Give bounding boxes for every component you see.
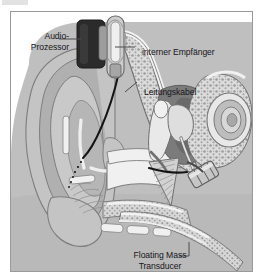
- callout-audio-processor: Audio- Prozessor: [15, 31, 69, 52]
- callout-lead-cable-line1: Leitungskabel: [144, 87, 196, 98]
- callout-internal-receiver-line1: interner Empfänger: [142, 47, 215, 58]
- callout-internal-receiver: interner Empfänger: [142, 47, 215, 58]
- callout-audio-processor-line1: Audio-: [15, 31, 69, 42]
- callout-audio-processor-line2: Prozessor: [15, 42, 69, 53]
- callout-lead-cable: Leitungskabel: [144, 87, 196, 98]
- callout-fmt-line1: Floating Mass: [121, 250, 199, 261]
- audio-processor: [77, 20, 107, 68]
- figure-root: Audio- Prozessor interner Empfänger Leit…: [0, 0, 266, 280]
- figure-frame: Audio- Prozessor interner Empfänger Leit…: [10, 11, 253, 272]
- callout-floating-mass-transducer: Floating Mass Transducer: [121, 250, 199, 271]
- scan-artifact: [2, 0, 28, 5]
- callout-fmt-line2: Transducer: [121, 261, 199, 272]
